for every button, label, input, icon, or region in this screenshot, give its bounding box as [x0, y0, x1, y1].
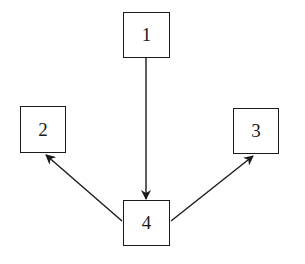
edge-4-to-3: [171, 156, 253, 221]
node-4-label: 4: [142, 212, 152, 234]
node-4: 4: [123, 200, 170, 246]
node-2-label: 2: [38, 119, 48, 141]
node-1-label: 1: [142, 24, 152, 46]
node-2: 2: [20, 106, 66, 153]
node-3: 3: [233, 108, 279, 154]
node-3-label: 3: [251, 120, 261, 142]
node-1: 1: [123, 12, 170, 58]
edge-4-to-2: [46, 155, 122, 221]
